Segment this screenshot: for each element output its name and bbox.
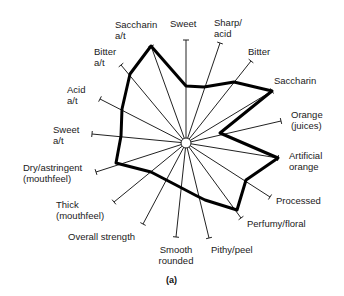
spoke (186, 143, 241, 218)
label-pithy-peel: Pithy/peel (211, 245, 253, 256)
spoke-tick (280, 118, 281, 124)
label-artificial-orange: Artificial orange (289, 151, 322, 172)
label-thick-mouthfeel: Thick (mouthfeel) (56, 200, 104, 221)
label-smooth-rounded: Smooth rounded (152, 245, 200, 266)
spoke (151, 46, 186, 143)
spoke (186, 43, 220, 143)
figure-caption: (a) (166, 275, 177, 285)
label-saccharin-at: Saccharin a/t (115, 20, 157, 41)
spoke-tick (92, 131, 93, 137)
profile-polygon (116, 46, 278, 210)
label-acid-at: Acid a/t (67, 85, 85, 106)
spoke-tick (206, 237, 212, 238)
label-orange-juices: Orange (juices) (291, 110, 323, 131)
label-sweet: Sweet (170, 19, 196, 30)
spoke (186, 91, 272, 143)
label-processed: Processed (276, 196, 321, 207)
spoke (186, 143, 270, 197)
spoke-tick (173, 237, 179, 238)
label-perfumy-floral: Perfumy/floral (247, 219, 306, 230)
label-bitter-at: Bitter a/t (94, 47, 116, 68)
label-sweet-at: Sweet a/t (53, 125, 79, 146)
label-bitter: Bitter (248, 47, 270, 58)
label-dry-astringent: Dry/astringent (mouthfeel) (23, 163, 82, 184)
label-overall-strength: Overall strength (68, 232, 135, 243)
spoke-tick (268, 194, 271, 199)
center-circle (181, 138, 191, 148)
label-saccharin: Saccharin (274, 76, 316, 87)
spoke-tick (239, 216, 244, 220)
label-sharp-acid: Sharp/ acid (214, 18, 242, 39)
